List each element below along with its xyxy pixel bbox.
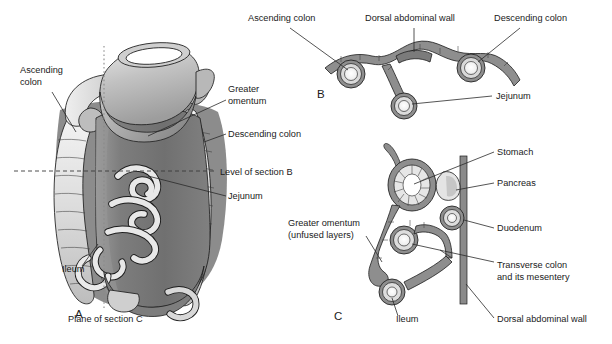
label-descending-colon-a: Descending colon	[228, 129, 301, 139]
lesser-omentum-stub-c	[384, 143, 400, 166]
transverse-mesocolon-c	[414, 225, 452, 258]
label-ileum-c: Ileum	[396, 314, 419, 324]
jejunum-mesentery-b	[382, 64, 404, 96]
leader-jejunum-b	[412, 96, 492, 104]
leader-transverse-colon-c	[412, 244, 494, 262]
leader-descending-colon-b	[478, 28, 520, 62]
label-jejunum-b: Jejunum	[496, 91, 531, 101]
label-greater-omentum-a: Greater omentum	[228, 84, 267, 106]
leader-ascending-colon-b	[290, 28, 348, 70]
label-ascending-colon-a: Ascending colon	[20, 65, 65, 87]
ascending-colon-section-b	[337, 60, 365, 88]
descending-colon-section-b	[457, 54, 485, 82]
transverse-colon-section-c	[390, 226, 418, 254]
panel-b-illustration	[325, 41, 520, 119]
leader-dorsal-wall-c	[466, 284, 494, 318]
label-ascending-colon-b: Ascending colon	[248, 13, 315, 23]
leader-duodenum-c	[464, 220, 494, 228]
label-ileum-a: Ileum	[62, 264, 85, 274]
jejunum-section-b	[391, 93, 417, 119]
anatomy-figure: Ascending colon Greater omentum Descendi…	[0, 0, 612, 344]
dorsal-abdominal-wall-c	[460, 156, 467, 304]
label-dorsal-abdominal-wall-b: Dorsal abdominal wall	[365, 13, 455, 23]
label-stomach-c: Stomach	[497, 147, 533, 157]
label-duodenum-c: Duodenum	[497, 223, 542, 233]
omentum-right-flap	[196, 69, 214, 98]
panel-c-illustration	[369, 143, 467, 305]
ileum-section-c	[379, 279, 405, 305]
ileum-mesentery-c	[404, 256, 452, 290]
label-pancreas-c: Pancreas	[497, 178, 536, 188]
label-jejunum-a: Jejunum	[228, 191, 263, 201]
panel-letter-a: A	[75, 308, 83, 320]
panel-letter-c: C	[334, 310, 342, 322]
panel-letter-b: B	[317, 88, 325, 100]
label-dorsal-abdominal-wall-c: Dorsal abdominal wall	[497, 314, 587, 324]
duodenum-section-c	[440, 206, 464, 230]
label-level-of-section-b: Level of section B	[220, 167, 293, 177]
stomach-section-c	[388, 159, 436, 211]
cecum-pouch	[108, 290, 140, 312]
label-descending-colon-b: Descending colon	[494, 13, 567, 23]
label-greater-omentum-unfused-c: Greater omentum (unfused layers)	[288, 218, 363, 240]
panel-a-illustration	[54, 40, 227, 318]
label-transverse-colon-c: Transverse colon and its mesentery	[497, 260, 570, 282]
